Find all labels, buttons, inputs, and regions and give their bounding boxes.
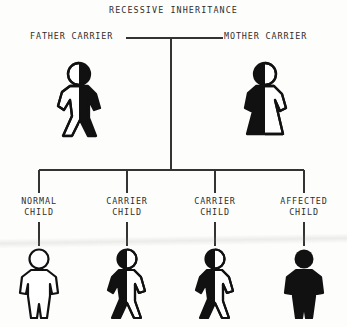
mother-figure: [237, 60, 297, 136]
child-label-0-line2: CHILD: [24, 207, 54, 217]
child-figure-0-normal: [17, 246, 63, 318]
child-figure-2-carrier: [193, 246, 239, 318]
child-label-1-line2: CHILD: [112, 207, 142, 217]
child-figure-3-affected: [282, 246, 328, 318]
recessive-inheritance-diagram: RECESSIVE INHERITANCE FATHER CARRIER MOT…: [0, 0, 347, 327]
child-label-2: CARRIERCHILD: [167, 196, 263, 217]
child-label-2-line1: CARRIER: [194, 196, 236, 206]
child-label-3: AFFECTEDCHILD: [256, 196, 347, 217]
child-label-0-line1: NORMAL: [21, 196, 57, 206]
child-label-1-line1: CARRIER: [106, 196, 148, 206]
child-label-1: CARRIERCHILD: [79, 196, 175, 217]
father-figure: [52, 60, 112, 136]
child-figure-1-carrier: [105, 246, 151, 318]
child-label-3-line1: AFFECTED: [280, 196, 328, 206]
child-label-3-line2: CHILD: [289, 207, 319, 217]
child-label-2-line2: CHILD: [200, 207, 230, 217]
child-label-0: NORMALCHILD: [0, 196, 87, 217]
